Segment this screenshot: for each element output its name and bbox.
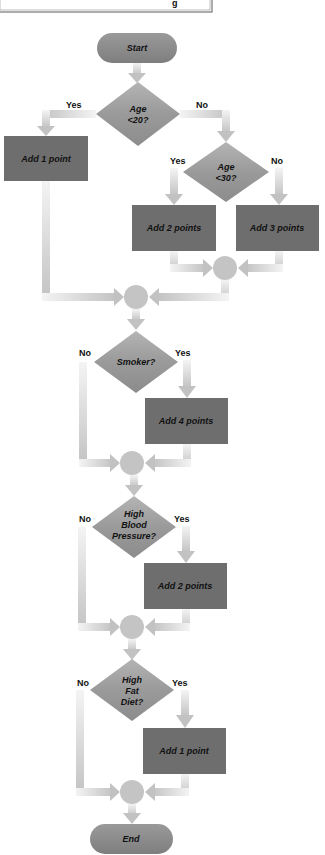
decision-age-under-20: Age <20? (96, 82, 180, 146)
yes-label: Yes (172, 678, 188, 688)
arrow-to-fat (123, 639, 141, 660)
svg-text:Add 2 points: Add 2 points (157, 581, 213, 591)
connector-circle (120, 451, 144, 475)
connector-circle (213, 256, 237, 280)
arrow-age20-no (180, 110, 235, 142)
yes-label: Yes (174, 514, 190, 524)
arrow-age30-yes (165, 168, 183, 205)
connector-circle (120, 780, 144, 804)
svg-text:Add 3 points: Add 3 points (249, 223, 305, 233)
process-add-4-points: Add 4 points (145, 398, 228, 444)
no-label: No (77, 678, 89, 688)
svg-text:Add 1 point: Add 1 point (158, 746, 209, 756)
no-label: No (196, 100, 208, 110)
start-terminal: Start (97, 33, 177, 63)
no-label: No (79, 514, 91, 524)
header-glyph: g (172, 0, 178, 8)
process-add-3-points: Add 3 points (236, 205, 319, 251)
svg-text:End: End (123, 834, 141, 844)
process-add-1-point-fat: Add 1 point (143, 728, 226, 774)
process-add-2-points-bp: Add 2 points (144, 563, 227, 609)
decision-high-blood-pressure: High Blood Pressure? (92, 496, 176, 558)
flowchart: g Start Age <20? Yes No Add 1 point Age … (0, 0, 325, 855)
svg-text:Pressure?: Pressure? (112, 531, 157, 541)
svg-text:Fat: Fat (125, 686, 140, 696)
svg-text:Blood: Blood (121, 520, 147, 530)
svg-text:Diet?: Diet? (121, 697, 144, 707)
process-add-1-point: Add 1 point (4, 136, 88, 181)
arrow-to-end (123, 804, 141, 824)
svg-text:Add 4 points: Add 4 points (158, 416, 214, 426)
decision-age-under-30: Age <30? (183, 142, 269, 202)
no-label: No (271, 156, 283, 166)
svg-text:<20?: <20? (128, 115, 149, 125)
end-terminal: End (90, 824, 173, 854)
arrow-to-smoker (127, 309, 145, 330)
yes-label: Yes (175, 348, 191, 358)
connector-circle (120, 615, 144, 639)
svg-text:Smoker?: Smoker? (117, 357, 156, 367)
decision-high-fat-diet: High Fat Diet? (90, 659, 174, 721)
svg-text:High: High (124, 509, 144, 519)
header-box: g (0, 0, 212, 12)
svg-text:Age: Age (216, 162, 234, 172)
yes-label: Yes (66, 100, 82, 110)
no-label: No (79, 348, 91, 358)
arrow-age30-no (270, 168, 288, 205)
svg-text:Start: Start (127, 43, 149, 53)
yes-label: Yes (170, 156, 186, 166)
svg-text:<30?: <30? (216, 173, 237, 183)
arrow-to-bp (125, 475, 143, 496)
arrow-age20-yes (37, 110, 96, 136)
svg-text:Add 2 points: Add 2 points (146, 223, 202, 233)
arrow-start-to-age20 (128, 63, 146, 83)
arrow-smoker-yes (178, 360, 196, 398)
decision-smoker: Smoker? (94, 331, 178, 393)
arrow-fat-yes (176, 690, 194, 728)
svg-text:High: High (122, 675, 142, 685)
svg-text:Age: Age (128, 104, 146, 114)
connector-circle (124, 285, 148, 309)
arrow-bp-yes (177, 526, 195, 563)
svg-text:Add 1 point: Add 1 point (20, 154, 71, 164)
process-add-2-points: Add 2 points (132, 205, 216, 251)
